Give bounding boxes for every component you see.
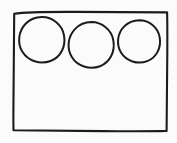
sketch-svg bbox=[0, 0, 177, 143]
sketch-canvas bbox=[0, 0, 177, 143]
